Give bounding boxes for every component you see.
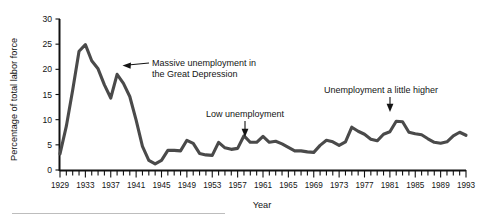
annotation-low-unemployment: Low unemployment (206, 109, 285, 137)
x-tick-label: 1973 (330, 181, 349, 190)
x-tick-label: 1977 (355, 181, 374, 190)
y-tick-label: 25 (42, 39, 52, 49)
annotation-higher-unemployment-arrow (387, 97, 394, 112)
x-tick-label: 1933 (76, 181, 95, 190)
x-tick-label: 1985 (406, 181, 425, 190)
x-tick-label: 1937 (102, 181, 121, 190)
y-tick-label: 0 (47, 165, 52, 175)
annotation-depression-line1: Massive unemployment in (152, 58, 256, 68)
x-tick-label: 1941 (127, 181, 146, 190)
y-tick-label: 10 (42, 115, 52, 125)
x-tick-label: 1965 (279, 181, 298, 190)
unemployment-rate-line (60, 45, 466, 164)
annotation-depression-line2: the Great Depression (152, 69, 238, 79)
x-tick-label: 1945 (152, 181, 171, 190)
x-tick-label: 1981 (381, 181, 400, 190)
y-tick-label: 15 (42, 90, 52, 100)
x-tick-label: 1993 (457, 181, 476, 190)
annotation-low-unemployment-arrow (242, 121, 249, 137)
y-tick-label: 20 (42, 64, 52, 74)
chart-canvas: 051015202530 192919331937194119451949195… (0, 0, 497, 217)
y-tick-label: 30 (42, 14, 52, 24)
annotation-higher-unemployment: Unemployment a little higher (324, 85, 438, 112)
y-tick-label: 5 (47, 140, 52, 150)
y-axis-tick-labels: 051015202530 (42, 14, 52, 175)
annotation-depression-arrow (123, 62, 150, 68)
x-tick-label: 1989 (432, 181, 451, 190)
x-tick-label: 1929 (51, 181, 70, 190)
annotation-higher-unemployment-label: Unemployment a little higher (324, 85, 438, 95)
annotation-depression: Massive unemployment in the Great Depres… (123, 58, 257, 79)
x-tick-label: 1957 (229, 181, 248, 190)
x-tick-label: 1969 (305, 181, 324, 190)
x-axis-tick-labels: 1929193319371941194519491953195719611965… (51, 181, 476, 190)
x-tick-label: 1953 (203, 181, 222, 190)
unemployment-chart-figure: 051015202530 192919331937194119451949195… (0, 0, 497, 217)
x-tick-label: 1949 (178, 181, 197, 190)
annotation-low-unemployment-label: Low unemployment (206, 109, 285, 119)
x-axis-title: Year (253, 200, 272, 210)
x-tick-label: 1961 (254, 181, 273, 190)
y-axis-title: Percentage of total labor force (9, 38, 19, 161)
